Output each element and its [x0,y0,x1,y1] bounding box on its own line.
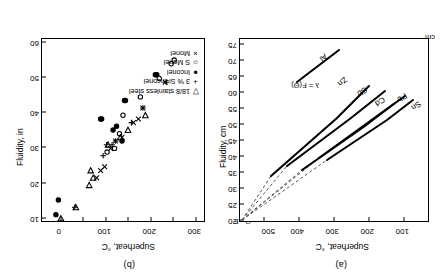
scatter-point [54,212,58,216]
panel-b-ytick-20: 20 [30,180,39,189]
panel-a-ytick-35: 35 [228,169,237,178]
panel-a-ytick-30: 30 [228,185,237,194]
legend-label-inconel: Inconel [167,67,190,77]
panel-b-ytick-40: 40 [30,109,39,118]
panel-b-ytick-60: 60 [30,39,39,48]
panel-b-yticks [41,42,46,218]
scatter-point [99,117,103,121]
panel-a-xticks [264,217,404,222]
plus-icon: + [190,77,201,87]
legend-label-stainless: 18/8 stainless steel [129,86,190,96]
panel-a-ytick-60: 60 [228,89,237,98]
panel-b-ytick-30: 30 [30,144,39,153]
scatter-point [125,127,131,132]
panel-a-ytick-75: 75 [228,41,237,50]
legend-item-s-monel: ○ S Monel [129,58,201,68]
scatter-point [102,164,107,169]
panel-b-ytick-10: 10 [30,215,39,224]
panel-a-graphics [223,0,447,278]
scatter-point [86,182,92,187]
panel-a-dashed-lines [242,158,327,220]
figure-root: (a) Superheat, °C 100 200 300 400 500 Θ … [0,0,447,278]
legend-item-si-inconel: + 3 % Si-Inconel [129,77,201,87]
circle-open-icon: ○ [190,58,201,68]
panel-a-ytick-65: 65 [228,73,237,82]
legend-label-monel: Monel [170,48,190,58]
scatter-point [112,146,116,150]
panel-a-ytick-45: 45 [228,137,237,146]
panel-a-unit-marker: cm [425,33,435,42]
cross-icon: × [190,48,201,58]
panel-a-yticks [239,44,244,220]
scatter-point [88,168,94,173]
panel-a-ytick-25: 25 [228,201,237,210]
panel-b: (b) Superheat, °C 300 200 100 0 [0,0,223,278]
panel-b-legend: ▽ 18/8 stainless steel + 3 % Si-Inconel … [129,48,201,96]
panel-a-ytick-20: 20 [228,217,237,226]
scatter-point [143,112,149,117]
panel-a-ytick-40: 40 [228,153,237,162]
scatter-point [123,98,127,102]
scatter-point [121,113,125,117]
panel-b-ytick-50: 50 [30,74,39,83]
legend-item-monel: × Monel [129,48,201,58]
scatter-point [111,128,115,132]
legend-item-inconel: ● Inconel [129,67,201,77]
legend-label-s-monel: S Monel [164,58,190,68]
panel-b-y-axis-title: Fluidity, in [15,128,25,166]
scatter-point [136,117,141,122]
legend-label-si-inconel: 3 % Si-Inconel [144,77,190,87]
panel-a-ytick-55: 55 [228,105,237,114]
panel-b-xticks [61,217,196,222]
scatter-point [114,124,118,128]
panel-a: (a) Superheat, °C 100 200 300 400 500 Θ … [223,0,447,278]
panel-a-ytick-70: 70 [228,57,237,66]
triangle-down-open-icon: ▽ [190,86,201,96]
legend-item-stainless: ▽ 18/8 stainless steel [129,86,201,96]
panel-a-data-lines [271,50,413,176]
scatter-point [56,198,60,202]
panel-a-ytick-50: 50 [228,121,237,130]
panel-a-annotation: λ = F(Θ) [291,81,319,90]
rotated-figure: (a) Superheat, °C 100 200 300 400 500 Θ … [0,0,447,278]
circle-filled-icon: ● [190,67,201,77]
